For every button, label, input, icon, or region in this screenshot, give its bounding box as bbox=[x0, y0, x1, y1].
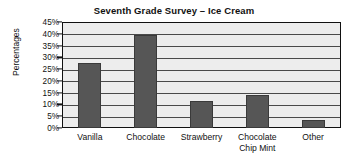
y-axis-tick-label: 25% bbox=[19, 65, 59, 74]
y-axis-tick-mark bbox=[57, 127, 62, 128]
bar bbox=[78, 63, 101, 128]
x-axis-category-label: Chocolate bbox=[114, 132, 178, 143]
y-axis-tick-mark bbox=[57, 69, 62, 70]
y-axis-tick-label: 5% bbox=[19, 112, 59, 121]
gridline bbox=[63, 58, 340, 59]
y-axis-tick-label: 0% bbox=[19, 124, 59, 133]
gridline bbox=[63, 81, 340, 82]
y-axis-tick-mark bbox=[57, 116, 62, 117]
y-axis-tick-label: 30% bbox=[19, 53, 59, 62]
chart-title: Seventh Grade Survey – Ice Cream bbox=[0, 5, 348, 16]
gridline bbox=[63, 46, 340, 47]
x-axis-category-label: Other bbox=[281, 132, 345, 143]
gridline bbox=[63, 34, 340, 35]
gridline bbox=[63, 70, 340, 71]
y-axis-tick-mark bbox=[57, 104, 62, 105]
bar bbox=[134, 35, 157, 128]
y-axis-tick-label: 20% bbox=[19, 76, 59, 85]
y-axis-tick-mark bbox=[57, 92, 62, 93]
y-axis-tick-mark bbox=[57, 80, 62, 81]
y-axis-tick-label: 15% bbox=[19, 88, 59, 97]
y-axis-tick-mark bbox=[57, 33, 62, 34]
x-axis-category-label: Chocolate Chip Mint bbox=[225, 132, 289, 154]
y-axis-tick-mark bbox=[57, 45, 62, 46]
gridline bbox=[63, 93, 340, 94]
y-axis-tick-label: 35% bbox=[19, 41, 59, 50]
bar bbox=[190, 101, 213, 128]
y-axis-tick-label: 40% bbox=[19, 29, 59, 38]
y-axis-tick-mark bbox=[57, 21, 62, 22]
x-axis-category-label: Strawberry bbox=[170, 132, 234, 143]
y-axis-tick-label: 10% bbox=[19, 100, 59, 109]
x-axis-category-label: Vanilla bbox=[58, 132, 122, 143]
y-axis-tick-mark bbox=[57, 57, 62, 58]
y-axis-tick-label: 45% bbox=[19, 18, 59, 27]
bar bbox=[302, 120, 325, 128]
bar bbox=[246, 95, 269, 128]
bar-chart: Seventh Grade Survey – Ice Cream Percent… bbox=[0, 0, 348, 167]
